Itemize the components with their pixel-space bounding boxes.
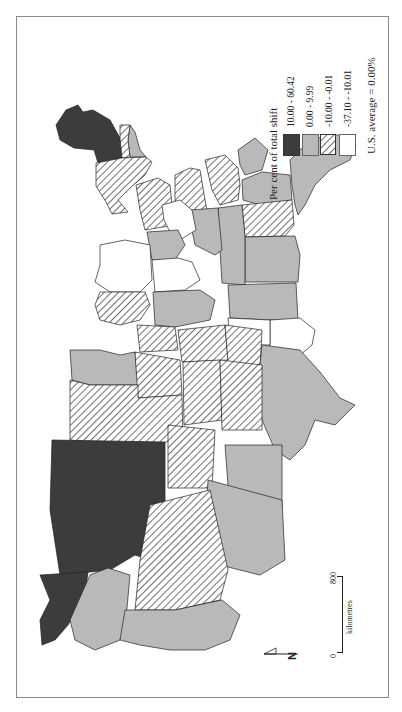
scale-unit-label: kilometres [345, 600, 354, 634]
state-kentucky [190, 208, 222, 255]
state-iowa [137, 325, 178, 352]
state-north-carolina [238, 138, 268, 175]
north-arrow: N [262, 642, 302, 662]
north-label: N [286, 652, 298, 660]
legend-label-1: 10.00 - 60.42 [286, 76, 296, 127]
scale-end-label: 800 [329, 572, 338, 584]
state-illinois [152, 258, 200, 292]
state-alabama [242, 200, 294, 237]
state-arkansas [228, 283, 298, 320]
legend-swatch-gray [302, 134, 319, 156]
state-utah [168, 425, 215, 488]
state-wyoming [183, 360, 222, 425]
scale-bar-tick-start [337, 652, 343, 653]
state-vermont [120, 125, 130, 158]
us-average-note: U.S. average = 0.00% [365, 57, 377, 154]
state-south-dakota [135, 352, 182, 398]
legend-title: Per cent of total shift [267, 108, 279, 200]
legend-label-4: -37.10 - -10.01 [343, 70, 353, 127]
state-tennessee [218, 205, 245, 285]
state-north-dakota [70, 350, 138, 385]
legend-label-2: 0.00 - 9.99 [305, 86, 315, 127]
state-colorado [220, 360, 262, 430]
legend-swatch-white [339, 134, 356, 156]
state-mississippi [245, 236, 300, 282]
scale-bar-line [342, 576, 343, 653]
state-virginia [205, 155, 240, 205]
state-minnesota [95, 292, 150, 325]
state-nebraska [178, 325, 228, 362]
legend-swatch-hatched [320, 134, 337, 156]
legend-label-3: -10.00 - -0.01 [324, 75, 334, 127]
state-wisconsin [95, 240, 152, 292]
state-indiana [147, 230, 185, 260]
state-new-hampshire [128, 125, 146, 157]
legend-swatch-dark [283, 134, 300, 156]
scale-start-label: 0 [329, 654, 338, 658]
state-maine [56, 105, 122, 163]
state-texas [258, 345, 355, 460]
state-missouri [153, 290, 215, 327]
